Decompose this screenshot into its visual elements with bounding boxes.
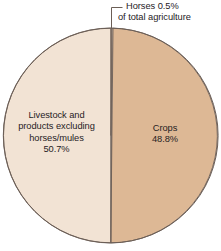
- crops-label-line-1: Crops: [122, 123, 208, 134]
- crops-slice-label: Crops 48.8%: [122, 123, 208, 146]
- livestock-label-line-3: horses/mules: [0, 133, 113, 144]
- pie-chart-figure: Horses 0.5% of total agriculture Livesto…: [0, 0, 221, 251]
- horses-callout-line-1: Horses 0.5%: [126, 1, 191, 12]
- livestock-label-line-2: products excluding: [0, 121, 113, 132]
- livestock-slice-label: Livestock and products excluding horses/…: [0, 110, 113, 156]
- crops-label-value: 48.8%: [122, 134, 208, 145]
- livestock-label-value: 50.7%: [0, 144, 113, 155]
- livestock-label-line-1: Livestock and: [0, 110, 113, 121]
- horses-callout-label: Horses 0.5% of total agriculture: [126, 1, 191, 24]
- horses-callout-line-2: of total agriculture: [118, 12, 191, 23]
